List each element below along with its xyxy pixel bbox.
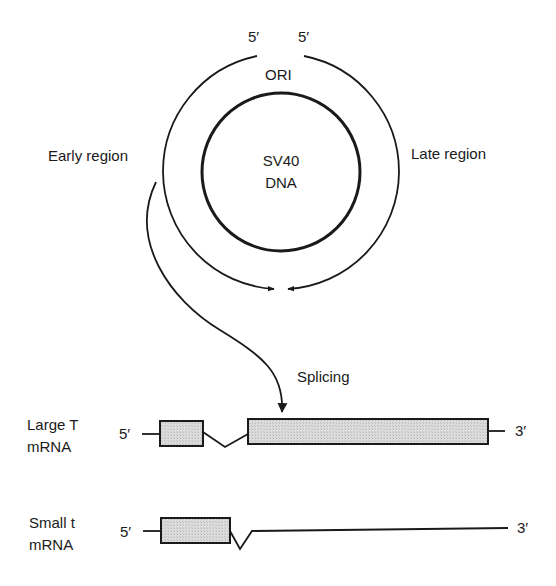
small-t-mrna-name: Small t mRNA <box>29 512 75 556</box>
large-t-mrna-name: Large T mRNA <box>27 414 78 458</box>
large-t-label: Large T <box>27 414 78 436</box>
small-t-label: Small t <box>29 512 75 534</box>
large-t-intron-splice <box>203 432 248 447</box>
small-t-five-prime-label: 5′ <box>120 523 131 541</box>
five-prime-right-label: 5′ <box>298 28 309 46</box>
small-t-mrna-label: mRNA <box>29 534 75 556</box>
large-t-exon-2 <box>248 419 488 444</box>
small-t-intron-splice <box>230 528 508 549</box>
sv40-diagram-canvas <box>0 0 556 586</box>
large-t-exon-1 <box>160 421 203 446</box>
ori-label: ORI <box>265 66 292 84</box>
large-t-three-prime-label: 3′ <box>515 422 526 440</box>
early-region-label: Early region <box>48 147 128 165</box>
five-prime-left-label: 5′ <box>248 28 259 46</box>
large-t-mrna-label: mRNA <box>27 436 78 458</box>
large-t-five-prime-label: 5′ <box>119 425 130 443</box>
splicing-label: Splicing <box>297 368 350 386</box>
dna-label: DNA <box>251 172 311 194</box>
sv40-label: SV40 <box>251 150 311 172</box>
sv40-dna-center-label: SV40 DNA <box>251 150 311 194</box>
late-region-label: Late region <box>411 145 486 163</box>
small-t-three-prime-label: 3′ <box>517 519 528 537</box>
small-t-mrna-structure <box>143 518 508 549</box>
large-t-mrna-structure <box>142 419 505 447</box>
small-t-exon <box>161 518 230 543</box>
